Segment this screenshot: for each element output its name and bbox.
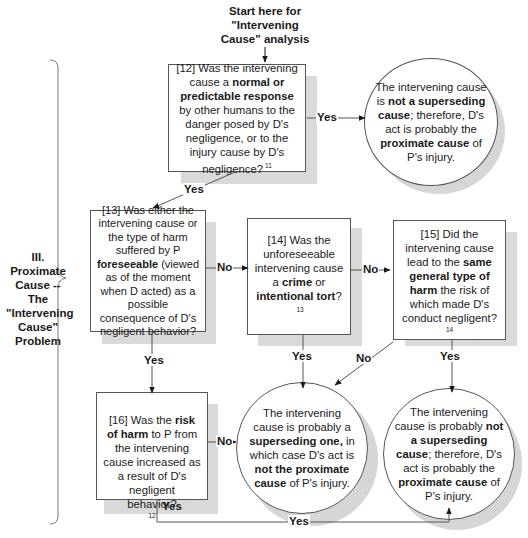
edge-label-q14-no: No (362, 263, 379, 275)
edge-label-q12-yes-down: Yes (183, 183, 205, 195)
edge-label-q16-yes-bottom: Yes (288, 515, 310, 527)
result-superseding: The intervening cause is probably a supe… (236, 382, 368, 514)
question-12-box: [12] Was the intervening cause a normal … (168, 64, 306, 172)
result-not-superseding-top: The intervening cause is not a supersedi… (364, 58, 498, 186)
edge-label-q16-no: No (216, 435, 233, 447)
start-label: Start here for "Intervening Cause" analy… (200, 4, 330, 46)
edge-label-q15-no: No (355, 352, 372, 364)
question-14-box: [14] Was the unforeseeable intervening c… (247, 218, 351, 335)
edge-label-q13-no: No (216, 261, 233, 273)
result-not-superseding-bottom: The intervening cause is probably not a … (383, 388, 515, 520)
question-16-box: [16] Was the risk of harm to P from the … (96, 392, 208, 500)
edge-label-q15-yes: Yes (439, 350, 461, 362)
section-label: III. Proximate Cause -- The "Intervening… (6, 250, 70, 348)
edge-label-q13-yes: Yes (143, 354, 165, 366)
edge-label-q12-yes-right: Yes (316, 111, 338, 123)
edge-label-q14-yes: Yes (291, 350, 313, 362)
question-15-box: [15] Did the intervening cause lead to t… (393, 220, 506, 340)
question-13-box: [13] Was either the intervening cause or… (90, 210, 206, 332)
edge-label-q16-yes-down: Yes (162, 500, 182, 512)
